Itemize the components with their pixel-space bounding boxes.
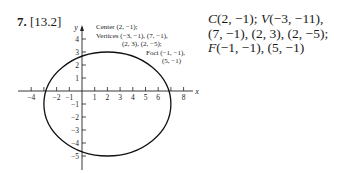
x-tick-label: 6 xyxy=(156,93,160,102)
y-tick-label: 3 xyxy=(75,48,79,57)
y-tick-label: −1 xyxy=(71,100,79,109)
x-tick-label: −2 xyxy=(53,93,61,102)
x-tick-label: 1 xyxy=(93,93,97,102)
x-tick-label: −4 xyxy=(27,93,35,102)
y-axis-arrow-icon xyxy=(80,25,84,31)
foci-symbol: F xyxy=(208,40,216,55)
x-tick-label: 4 xyxy=(131,93,135,102)
ellipse-curve xyxy=(44,52,171,156)
x-axis-label: x xyxy=(194,87,199,96)
annotation-center: Center (2, −1); xyxy=(96,23,138,31)
center-symbol: C xyxy=(208,11,217,26)
x-tick-label: 2 xyxy=(106,93,110,102)
y-axis-label: y xyxy=(73,23,78,32)
x-tick-label: 5 xyxy=(144,93,148,102)
x-tick-label: 3 xyxy=(118,93,122,102)
annotation-vertices: Vertices (−3, −1), (7, −1), xyxy=(96,32,168,40)
y-tick-label: −2 xyxy=(71,113,79,122)
vertices-symbol: V xyxy=(261,11,269,26)
y-tick-label: 4 xyxy=(75,35,79,44)
center-value: (2, −1); xyxy=(217,11,261,26)
vertices-value-2: (7, −1), (2, 3), (2, −5); xyxy=(208,26,328,41)
annotation-foci-cont: (5, −1) xyxy=(162,57,182,65)
x-tick-label: 8 xyxy=(182,93,186,102)
y-tick-label: −4 xyxy=(71,139,79,148)
annotation-vertices-cont: (2, 3), (2, −5); xyxy=(122,40,162,48)
vertices-value-1: (−3, −11), xyxy=(269,11,323,26)
y-tick-label: 2 xyxy=(75,61,79,70)
y-tick-label: −5 xyxy=(71,152,79,161)
foci-value: (−1, −1), (5, −1) xyxy=(216,40,304,55)
answer-text: C(2, −1); V(−3, −11), (7, −1), (2, 3), (… xyxy=(208,12,328,56)
y-tick-label: 1 xyxy=(75,74,79,83)
y-tick-label: −3 xyxy=(71,126,79,135)
annotation-foci: Foci (−1, −1), xyxy=(146,49,185,57)
